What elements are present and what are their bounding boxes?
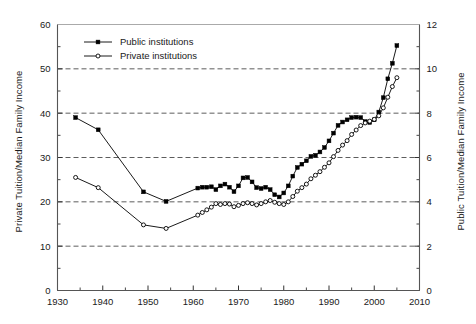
data-point-marker — [309, 177, 313, 181]
x-tick-label: 2010 — [409, 296, 430, 307]
data-point-marker — [250, 202, 254, 206]
data-point-marker — [300, 186, 304, 190]
data-point-marker — [363, 121, 367, 125]
data-point-marker — [214, 188, 218, 192]
y-tick-label-left: 60 — [40, 19, 51, 30]
data-point-marker — [142, 190, 146, 194]
y-tick-label-left: 30 — [40, 152, 51, 163]
y-tick-label-right: 8 — [427, 108, 432, 119]
data-point-marker — [246, 176, 250, 180]
data-point-marker — [259, 187, 263, 191]
data-point-marker — [309, 154, 313, 158]
y-tick-label-left: 50 — [40, 63, 51, 74]
data-point-marker — [268, 188, 272, 192]
data-point-marker — [282, 202, 286, 206]
data-point-marker — [164, 199, 168, 203]
data-point-marker — [336, 148, 340, 152]
data-point-marker — [219, 184, 223, 188]
x-tick-label: 2000 — [364, 296, 385, 307]
y-tick-label-left: 40 — [40, 108, 51, 119]
data-point-marker — [332, 155, 336, 159]
data-point-marker — [318, 150, 322, 154]
data-point-marker — [259, 202, 263, 206]
data-point-marker — [209, 205, 213, 209]
data-point-marker — [205, 208, 209, 212]
data-point-marker — [141, 223, 145, 227]
data-point-marker — [322, 165, 326, 169]
x-tick-label: 1930 — [47, 296, 68, 307]
y-tick-label-right: 12 — [427, 19, 438, 30]
data-point-marker — [336, 123, 340, 127]
data-point-marker — [345, 139, 349, 143]
data-point-marker — [273, 200, 277, 204]
data-point-marker — [372, 117, 376, 121]
data-point-marker — [209, 185, 213, 189]
x-tick-label: 1940 — [92, 296, 113, 307]
legend-label-1: Public institutions — [120, 36, 194, 47]
legend-marker-2 — [96, 54, 100, 58]
data-point-marker — [214, 202, 218, 206]
x-tick-label: 1970 — [228, 296, 249, 307]
data-point-marker — [196, 213, 200, 217]
x-tick-label: 1980 — [273, 296, 294, 307]
data-point-marker — [304, 159, 308, 163]
data-point-marker — [295, 189, 299, 193]
y-tick-label-right: 0 — [427, 285, 432, 296]
data-point-marker — [327, 139, 331, 143]
data-point-marker — [359, 116, 363, 120]
x-tick-label: 1950 — [137, 296, 158, 307]
y-tick-label-right: 6 — [427, 152, 432, 163]
data-point-marker — [241, 202, 245, 206]
data-point-marker — [227, 202, 231, 206]
y-tick-label-left: 20 — [40, 196, 51, 207]
data-series-layer — [74, 44, 399, 231]
data-point-marker — [232, 190, 236, 194]
data-point-marker — [313, 173, 317, 177]
data-point-marker — [368, 119, 372, 123]
grid-lines — [58, 69, 420, 246]
data-point-marker — [350, 132, 354, 136]
y-tick-label-right: 10 — [427, 63, 438, 74]
data-point-marker — [381, 106, 385, 110]
data-point-marker — [354, 128, 358, 132]
data-point-marker — [291, 174, 295, 178]
data-point-marker — [96, 186, 100, 190]
data-point-marker — [74, 175, 78, 179]
legend-label-2: Private institutions — [120, 50, 197, 61]
data-point-marker — [354, 115, 358, 119]
data-point-marker — [386, 95, 390, 99]
x-tick-label: 1960 — [183, 296, 204, 307]
chart-figure: Private Tuition/Median Family Income Pub… — [0, 0, 476, 324]
y-tick-label-right: 4 — [427, 196, 432, 207]
data-point-marker — [381, 96, 385, 100]
legend-marker-1 — [96, 40, 100, 44]
data-point-marker — [223, 202, 227, 206]
data-point-marker — [300, 162, 304, 166]
data-point-marker — [96, 128, 100, 132]
data-point-marker — [255, 186, 259, 190]
data-point-marker — [196, 186, 200, 190]
data-point-marker — [377, 114, 381, 118]
data-point-marker — [327, 161, 331, 165]
data-point-marker — [200, 210, 204, 214]
data-point-marker — [386, 77, 390, 81]
data-point-marker — [295, 166, 299, 170]
data-point-marker — [228, 185, 232, 189]
data-point-marker — [291, 195, 295, 199]
data-point-marker — [395, 76, 399, 80]
data-point-marker — [286, 200, 290, 204]
data-point-marker — [318, 170, 322, 174]
data-point-marker — [264, 200, 268, 204]
data-point-marker — [205, 185, 209, 189]
data-point-marker — [268, 199, 272, 203]
tick-labels: 0102030405060024681012193019401950196019… — [40, 19, 437, 307]
data-point-marker — [277, 202, 281, 206]
data-point-marker — [345, 118, 349, 122]
data-point-marker — [304, 182, 308, 186]
data-point-marker — [237, 203, 241, 207]
data-point-marker — [164, 226, 168, 230]
data-point-marker — [218, 202, 222, 206]
data-point-marker — [341, 120, 345, 124]
chart-legend: Public institutionsPrivate institutions — [84, 36, 197, 61]
data-point-marker — [200, 185, 204, 189]
